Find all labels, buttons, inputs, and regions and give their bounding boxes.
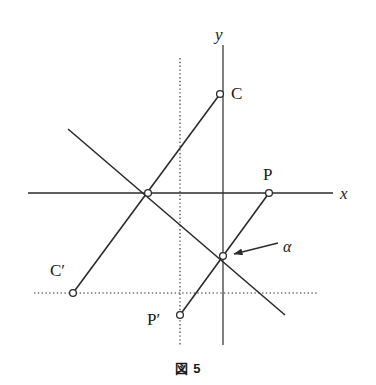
point-label-C-prime: C′ xyxy=(50,262,65,279)
x-axis-label: x xyxy=(340,185,348,202)
point-markers xyxy=(70,91,273,319)
point-C xyxy=(217,91,224,98)
alpha-annotation-label: α xyxy=(283,239,291,255)
figure-caption: 図 5 xyxy=(0,358,376,377)
point-label-P-prime: P′ xyxy=(147,311,160,328)
point-label-P: P xyxy=(263,166,272,183)
line-descending xyxy=(68,129,285,315)
y-axis-label: y xyxy=(215,26,223,43)
point-Pprime xyxy=(177,312,184,319)
point-alpha xyxy=(220,253,227,260)
alpha-pointer-arrow xyxy=(234,243,278,254)
figure-container: x y C P C′ P′ α 図 5 xyxy=(0,0,376,385)
geometry-diagram xyxy=(0,0,376,385)
point-intersection-x-axis xyxy=(145,190,152,197)
point-Cprime xyxy=(70,290,77,297)
point-label-C: C xyxy=(231,85,242,102)
point-P xyxy=(266,190,273,197)
